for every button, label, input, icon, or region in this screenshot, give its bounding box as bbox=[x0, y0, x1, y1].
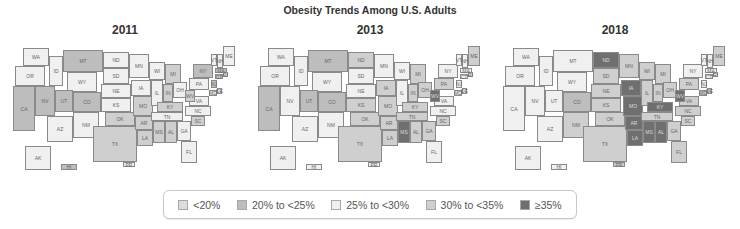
state-ks: KS bbox=[346, 98, 376, 112]
state-pr: PR bbox=[613, 162, 625, 167]
state-id: ID bbox=[539, 56, 553, 86]
state-or: OR bbox=[15, 66, 45, 86]
state-ia: IA bbox=[621, 80, 641, 96]
state-ca: CA bbox=[258, 86, 280, 131]
state-fl: FL bbox=[181, 141, 197, 163]
state-ky: KY bbox=[402, 102, 428, 112]
state-pa: PA bbox=[434, 78, 454, 90]
state-ia: IA bbox=[376, 80, 396, 96]
state-wy: WY bbox=[312, 72, 342, 92]
state-wy: WY bbox=[557, 72, 587, 92]
state-mt: MT bbox=[553, 50, 593, 72]
state-ak: AK bbox=[515, 146, 541, 170]
state-pr: PR bbox=[368, 162, 380, 167]
state-ky: KY bbox=[647, 102, 673, 112]
state-ia: IA bbox=[131, 80, 151, 96]
state-or: OR bbox=[505, 66, 535, 86]
legend-item-under-20: <20% bbox=[178, 199, 220, 211]
state-nv: NV bbox=[280, 86, 300, 116]
state-la: LA bbox=[627, 130, 643, 146]
state-ms: MS bbox=[643, 121, 655, 143]
state-me: ME bbox=[468, 46, 480, 66]
state-al: AL bbox=[165, 121, 177, 143]
state-nv: NV bbox=[35, 86, 55, 116]
state-ga: GA bbox=[667, 121, 681, 141]
state-me: ME bbox=[223, 46, 235, 66]
state-hi: HI bbox=[306, 164, 322, 170]
state-mi: MI bbox=[655, 64, 671, 84]
map-panel-2011: 2011WAORCAIDNVMTWYUTAZCONMNDSDNEKSOKTXMN… bbox=[5, 20, 245, 185]
state-al: AL bbox=[410, 121, 422, 143]
state-or: OR bbox=[260, 66, 290, 86]
state-pr: PR bbox=[123, 162, 135, 167]
state-ms: MS bbox=[153, 121, 165, 143]
state-in: IN bbox=[653, 84, 663, 102]
state-la: LA bbox=[137, 130, 153, 146]
state-id: ID bbox=[294, 56, 308, 86]
state-co: CO bbox=[563, 92, 591, 112]
state-ut: UT bbox=[300, 90, 318, 112]
state-al: AL bbox=[655, 121, 667, 143]
state-mn: MN bbox=[619, 54, 639, 78]
state-ny: NY bbox=[683, 64, 703, 78]
state-nj: NJ bbox=[456, 80, 462, 88]
state-nc: NC bbox=[185, 106, 211, 116]
state-in: IN bbox=[163, 84, 173, 102]
state-nd: ND bbox=[593, 52, 619, 68]
us-map: WAORCAIDNVMTWYUTAZCONMNDSDNEKSOKTXMNIAMO… bbox=[5, 46, 245, 186]
state-ma: MA bbox=[705, 68, 717, 73]
us-map: WAORCAIDNVMTWYUTAZCONMNDSDNEKSOKTXMNIAMO… bbox=[250, 46, 490, 186]
state-fl: FL bbox=[426, 141, 442, 163]
state-wv: WV bbox=[185, 90, 195, 102]
state-ms: MS bbox=[398, 121, 410, 143]
state-sd: SD bbox=[103, 68, 129, 84]
state-wv: WV bbox=[675, 90, 685, 102]
year-label: 2018 bbox=[495, 23, 735, 37]
chart-title: Obesity Trends Among U.S. Adults bbox=[0, 4, 740, 16]
state-mi: MI bbox=[410, 64, 426, 84]
state-co: CO bbox=[73, 92, 101, 112]
state-ok: OK bbox=[105, 112, 135, 126]
state-id: ID bbox=[49, 56, 63, 86]
state-ca: CA bbox=[503, 86, 525, 131]
state-wv: WV bbox=[430, 90, 440, 102]
legend: <20% 20% to <25% 25% to <30% 30% to <35%… bbox=[163, 190, 577, 219]
state-ky: KY bbox=[157, 102, 183, 112]
state-sc: SC bbox=[191, 116, 205, 126]
legend-swatch bbox=[178, 200, 188, 210]
state-wy: WY bbox=[67, 72, 97, 92]
state-nc: NC bbox=[430, 106, 456, 116]
state-hi: HI bbox=[61, 164, 77, 170]
state-mo: MO bbox=[133, 96, 153, 116]
state-tx: TX bbox=[338, 126, 382, 162]
state-de: DE bbox=[707, 88, 712, 94]
legend-label: <20% bbox=[193, 199, 220, 211]
state-ok: OK bbox=[595, 112, 625, 126]
state-hi: HI bbox=[551, 164, 567, 170]
state-sd: SD bbox=[348, 68, 374, 84]
legend-label: 30% to <35% bbox=[441, 199, 504, 211]
state-mt: MT bbox=[63, 50, 103, 72]
state-ga: GA bbox=[177, 121, 191, 141]
legend-label: 25% to <30% bbox=[346, 199, 409, 211]
state-wi: WI bbox=[149, 62, 165, 80]
state-ct: CT bbox=[460, 74, 468, 79]
state-ne: NE bbox=[101, 84, 131, 98]
state-ct: CT bbox=[215, 74, 223, 79]
state-mo: MO bbox=[378, 96, 398, 116]
state-nj: NJ bbox=[211, 80, 217, 88]
state-wi: WI bbox=[639, 62, 655, 80]
legend-item-25-30: 25% to <30% bbox=[331, 199, 409, 211]
state-pa: PA bbox=[679, 78, 699, 90]
state-ne: NE bbox=[346, 84, 376, 98]
year-label: 2011 bbox=[5, 23, 245, 37]
state-nd: ND bbox=[103, 52, 129, 68]
state-pa: PA bbox=[189, 78, 209, 90]
state-de: DE bbox=[462, 88, 467, 94]
state-wa: WA bbox=[513, 48, 539, 66]
legend-swatch bbox=[331, 200, 341, 210]
state-ut: UT bbox=[545, 90, 563, 112]
state-de: DE bbox=[217, 88, 222, 94]
legend-item-35-plus: ≥35% bbox=[520, 199, 562, 211]
state-mn: MN bbox=[129, 54, 149, 78]
